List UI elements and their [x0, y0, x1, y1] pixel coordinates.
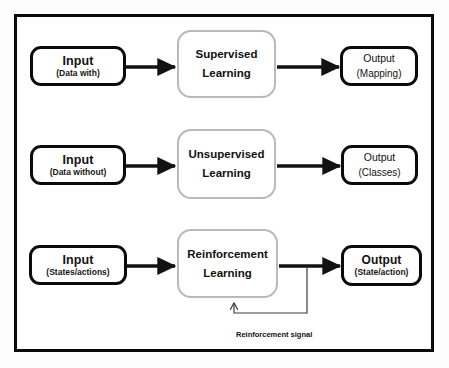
process-label-supervised-line1: Supervised — [196, 48, 258, 61]
output-subtitle-unsupervised: (Classes) — [358, 167, 400, 178]
input-subtitle-reinforcement: (States/actions) — [46, 268, 109, 278]
output-box-reinforcement[interactable]: Output (State/action) — [341, 245, 422, 286]
output-subtitle-reinforcement: (State/action) — [355, 268, 409, 278]
output-subtitle-supervised: (Mapping) — [356, 68, 401, 79]
output-box-supervised[interactable]: Output (Mapping) — [340, 46, 418, 86]
process-label-reinforcement-line2: Learning — [203, 267, 252, 280]
input-subtitle-unsupervised: (Data without) — [50, 168, 107, 178]
input-title-reinforcement: Input — [62, 253, 93, 267]
input-title-supervised: Input — [62, 54, 93, 68]
output-title-unsupervised: Output — [364, 152, 396, 164]
output-title-supervised: Output — [363, 53, 395, 65]
process-label-supervised-line2: Learning — [202, 67, 251, 80]
output-title-reinforcement: Output — [362, 254, 402, 267]
process-box-unsupervised[interactable]: Unsupervised Learning — [177, 129, 276, 199]
process-label-unsupervised-line1: Unsupervised — [188, 148, 264, 161]
process-label-unsupervised-line2: Learning — [202, 167, 251, 180]
input-subtitle-supervised: (Data with) — [56, 69, 99, 79]
input-box-reinforcement[interactable]: Input (States/actions) — [29, 245, 127, 285]
process-box-reinforcement[interactable]: Reinforcement Learning — [177, 229, 278, 298]
output-box-unsupervised[interactable]: Output (Classes) — [341, 145, 418, 185]
process-label-reinforcement-line1: Reinforcement — [187, 248, 268, 261]
process-box-supervised[interactable]: Supervised Learning — [177, 30, 276, 98]
diagram-canvas: Input (Data with) Supervised Learning Ou… — [0, 0, 449, 368]
input-box-unsupervised[interactable]: Input (Data without) — [30, 145, 126, 185]
input-box-supervised[interactable]: Input (Data with) — [30, 46, 126, 86]
input-title-unsupervised: Input — [62, 153, 93, 167]
